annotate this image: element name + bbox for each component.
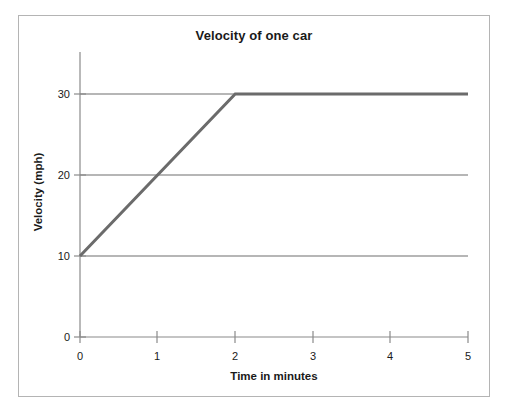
y-tick-label-30: 30 bbox=[44, 88, 70, 100]
x-tick-label-1: 1 bbox=[147, 350, 167, 362]
y-tick-label-10: 10 bbox=[44, 250, 70, 262]
y-tick-label-20: 20 bbox=[44, 169, 70, 181]
figure-root: Velocity of one car 0 10 20 30 0 1 2 3 4… bbox=[0, 0, 508, 414]
y-tick-label-0: 0 bbox=[44, 331, 70, 343]
x-tick-label-4: 4 bbox=[380, 350, 400, 362]
x-tick-label-5: 5 bbox=[458, 350, 478, 362]
x-tick-label-2: 2 bbox=[225, 350, 245, 362]
x-axis-title: Time in minutes bbox=[80, 370, 468, 382]
x-tick-label-0: 0 bbox=[70, 350, 90, 362]
y-axis-title: Velocity (mph) bbox=[32, 132, 44, 252]
x-tick-label-3: 3 bbox=[303, 350, 323, 362]
